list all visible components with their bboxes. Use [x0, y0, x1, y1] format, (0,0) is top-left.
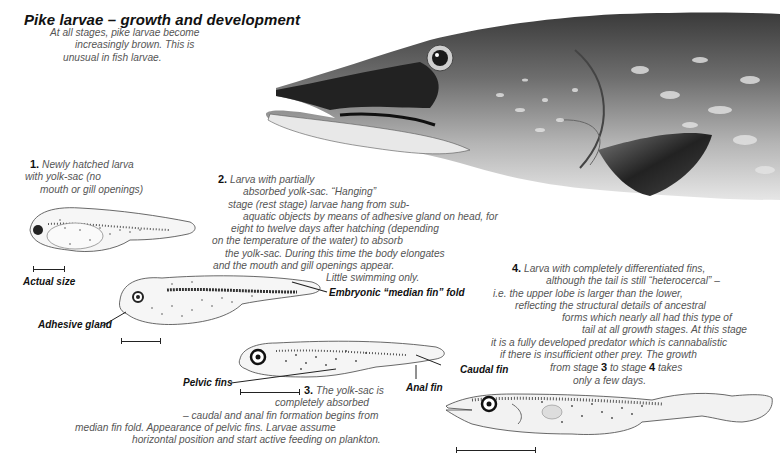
- actual-size-label: Actual size: [23, 276, 75, 287]
- stage-1-larva-illustration: [20, 200, 200, 255]
- caudal-fin-label: Caudal fin: [460, 364, 508, 375]
- stage-2-larva-illustration: [112, 270, 332, 330]
- stage-3-caption: 3. The yolk-sac is completely absorbed –…: [75, 384, 336, 446]
- adhesive-gland-label: Adhesive gland: [38, 319, 112, 330]
- stage-1-scale-bar: [34, 269, 64, 270]
- stage-1-caption: 1. Newly hatched larva with yolk-sac (no…: [25, 158, 129, 196]
- stage-4-number: 4.: [512, 262, 521, 274]
- stage-3-larva-illustration: [236, 337, 456, 382]
- stage-2-scale-bar: [122, 341, 160, 342]
- stage-3-number: 3.: [304, 384, 313, 396]
- stage-4-scale-bar: [457, 450, 535, 451]
- stage-4-caption: 4. Larva with completely differentiated …: [503, 262, 739, 387]
- stage-2-number: 2.: [218, 173, 227, 185]
- stage-4-larva-illustration: [442, 388, 780, 443]
- stage-2-caption: 2. Larva with partially absorbed yolk-sa…: [213, 173, 468, 285]
- median-fin-label: Embryonic “median fin” fold: [329, 287, 465, 298]
- stage-1-number: 1.: [30, 158, 39, 170]
